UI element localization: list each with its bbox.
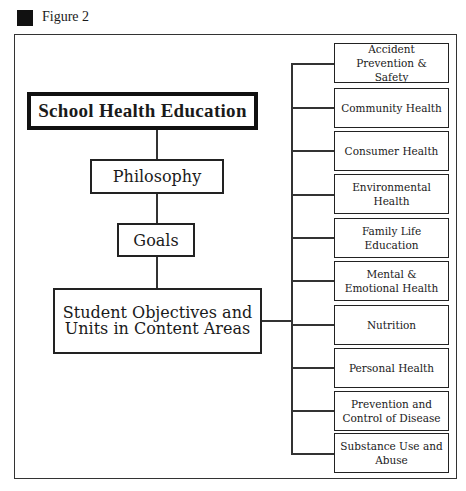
connector-goals-objectives — [156, 257, 158, 288]
bracket-tick — [291, 150, 334, 152]
connector-objectives-bracket — [262, 320, 292, 322]
bracket-tick — [291, 107, 334, 109]
bracket-tick — [291, 324, 334, 326]
goals-box: Goals — [117, 223, 195, 257]
content-area-consumer-health: Consumer Health — [334, 131, 449, 171]
content-area-substance-use-abuse: Substance Use and Abuse — [334, 433, 449, 473]
connector-title-philosophy — [156, 130, 158, 159]
bracket-tick — [291, 453, 334, 455]
bracket-tick — [291, 194, 334, 196]
bracket-tick — [291, 367, 334, 369]
content-area-nutrition: Nutrition — [334, 305, 449, 345]
content-area-mental-emotional-health: Mental & Emotional Health — [334, 261, 449, 301]
bracket-tick — [291, 237, 334, 239]
bracket-vertical-line — [291, 63, 293, 454]
content-area-community-health: Community Health — [334, 88, 449, 128]
bracket-tick — [291, 63, 334, 65]
student-objectives-box: Student Objectives and Units in Content … — [53, 288, 262, 354]
content-area-environmental-health: Environmental Health — [334, 174, 449, 214]
content-area-prevention-control-disease: Prevention and Control of Disease — [334, 391, 449, 431]
connector-philosophy-goals — [156, 194, 158, 223]
school-health-education-box: School Health Education — [27, 92, 258, 130]
philosophy-box: Philosophy — [90, 159, 224, 194]
figure-label: Figure 2 — [42, 9, 89, 25]
content-area-personal-health: Personal Health — [334, 348, 449, 388]
content-area-accident-prevention: Accident Prevention & Safety — [334, 43, 449, 83]
figure-marker-icon — [17, 10, 33, 26]
bracket-tick — [291, 280, 334, 282]
bracket-tick — [291, 410, 334, 412]
content-area-family-life-education: Family Life Education — [334, 218, 449, 258]
